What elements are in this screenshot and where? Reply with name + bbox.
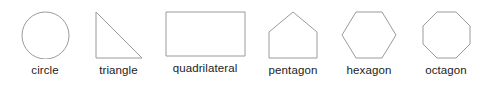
hexagon-outline-icon	[341, 11, 397, 59]
shape-label-circle: circle	[31, 64, 58, 77]
shape-item-quadrilateral: quadrilateral	[155, 0, 255, 88]
shape-label-hexagon: hexagon	[347, 64, 392, 77]
shape-label-quadrilateral: quadrilateral	[173, 62, 238, 75]
rectangle-outline-icon	[165, 11, 246, 57]
shape-label-pentagon: pentagon	[269, 64, 318, 77]
shape-item-octagon: octagon	[407, 0, 485, 88]
shape-item-pentagon: pentagon	[255, 0, 331, 88]
right-triangle-outline-icon	[95, 11, 143, 59]
pentagon-outline-icon	[268, 11, 318, 59]
octagon-outline-icon	[422, 11, 471, 59]
shape-label-triangle: triangle	[99, 64, 138, 77]
shape-item-hexagon: hexagon	[331, 0, 407, 88]
shape-item-circle: circle	[8, 0, 82, 88]
shapes-figure: circle triangle quadrilateral pentagon h…	[0, 0, 487, 88]
circle-outline-icon	[21, 11, 70, 59]
shape-item-triangle: triangle	[82, 0, 155, 88]
shape-label-octagon: octagon	[425, 64, 467, 77]
